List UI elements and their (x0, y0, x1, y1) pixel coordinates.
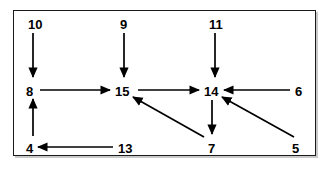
diagram-canvas: 1091181514641375 (0, 0, 331, 170)
node-label-13: 13 (118, 142, 132, 155)
node-label-10: 10 (28, 18, 42, 31)
node-label-9: 9 (120, 18, 127, 31)
edge-7-to-15 (133, 97, 204, 137)
node-label-5: 5 (292, 142, 299, 155)
node-label-7: 7 (208, 142, 215, 155)
graph-edges-layer (0, 0, 331, 170)
edge-group (33, 33, 294, 147)
node-label-11: 11 (209, 18, 223, 31)
edge-5-to-14 (222, 97, 294, 137)
node-label-15: 15 (115, 85, 129, 98)
node-label-6: 6 (295, 85, 302, 98)
node-label-4: 4 (26, 142, 33, 155)
node-label-14: 14 (204, 85, 218, 98)
node-label-8: 8 (26, 85, 33, 98)
